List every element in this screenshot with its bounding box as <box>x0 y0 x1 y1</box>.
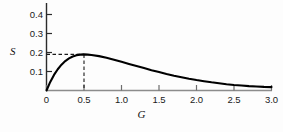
x-tick-label: 0.5 <box>77 94 90 105</box>
y-tick-marks <box>47 15 53 72</box>
x-tick-label: 1.5 <box>152 94 165 105</box>
y-axis-title: S <box>10 45 16 57</box>
y-tick-label: 0.3 <box>30 28 43 39</box>
x-tick-label: 0 <box>44 94 49 105</box>
x-tick-label: 1.0 <box>115 94 128 105</box>
x-tick-label: 2.0 <box>190 94 203 105</box>
y-tick-label: 0.4 <box>30 9 43 20</box>
y-tick-labels: 0.4 0.3 0.2 0.1 <box>30 9 43 77</box>
x-axis-title: G <box>0 108 283 120</box>
y-tick-label: 0.2 <box>30 47 43 58</box>
chart-container: 0.4 0.3 0.2 0.1 0 0.5 1.0 1.5 2.0 2.5 3.… <box>0 0 283 132</box>
x-tick-labels: 0 0.5 1.0 1.5 2.0 2.5 3.0 <box>44 94 278 105</box>
x-tick-label: 3.0 <box>265 94 278 105</box>
y-tick-label: 0.1 <box>30 66 43 77</box>
x-tick-label: 2.5 <box>227 94 240 105</box>
